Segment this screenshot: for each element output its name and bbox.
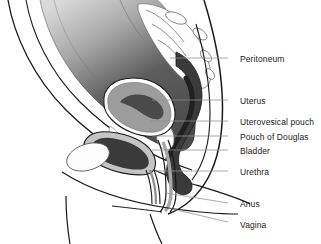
label-pouch-of-douglas: Pouch of Douglas	[240, 133, 309, 142]
label-anus: Anus	[240, 200, 260, 209]
label-bladder: Bladder	[240, 147, 270, 156]
label-uterus: Uterus	[240, 97, 266, 106]
anatomy-figure: PeritoneumUterusUterovesical pouchPouch …	[0, 0, 321, 244]
label-vagina: Vagina	[240, 221, 266, 230]
label-peritoneum: Peritoneum	[240, 55, 284, 64]
label-urethra: Urethra	[240, 168, 269, 177]
label-uterovesical-pouch: Uterovesical pouch	[240, 118, 314, 127]
